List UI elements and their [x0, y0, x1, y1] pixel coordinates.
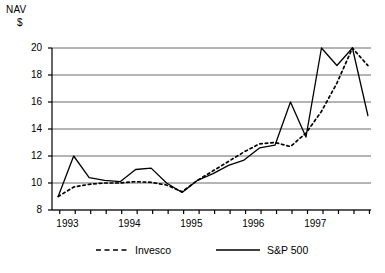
y-tick-label-12: 12 [20, 150, 42, 161]
y-tick-label-18: 18 [20, 69, 42, 80]
series-line-s-p-500 [58, 48, 368, 197]
y-tick-label-8: 8 [20, 204, 42, 215]
legend-swatch-invesco [95, 242, 129, 256]
chart-legend: Invesco S&P 500 [0, 242, 385, 262]
x-tick-label-1997: 1997 [295, 218, 335, 229]
x-tick-label-1996: 1996 [233, 218, 273, 229]
x-axis-ticks [60, 210, 370, 214]
legend-label-sp500: S&P 500 [267, 244, 308, 256]
gridlines [52, 48, 371, 210]
nav-performance-chart: NAV $ 8101214161820 19931994199519961997… [0, 0, 385, 273]
legend-swatch-sp500 [215, 242, 261, 256]
y-axis-title-currency: $ [17, 17, 23, 28]
plot-area [0, 0, 385, 273]
data-series-layer [58, 48, 368, 197]
y-axis-title-nav: NAV [6, 4, 26, 15]
y-tick-label-14: 14 [20, 123, 42, 134]
y-tick-label-16: 16 [20, 96, 42, 107]
x-tick-label-1995: 1995 [171, 218, 211, 229]
legend-label-invesco: Invesco [135, 244, 171, 256]
y-tick-label-10: 10 [20, 177, 42, 188]
y-tick-label-20: 20 [20, 42, 42, 53]
x-tick-label-1993: 1993 [47, 218, 87, 229]
x-tick-label-1994: 1994 [109, 218, 149, 229]
